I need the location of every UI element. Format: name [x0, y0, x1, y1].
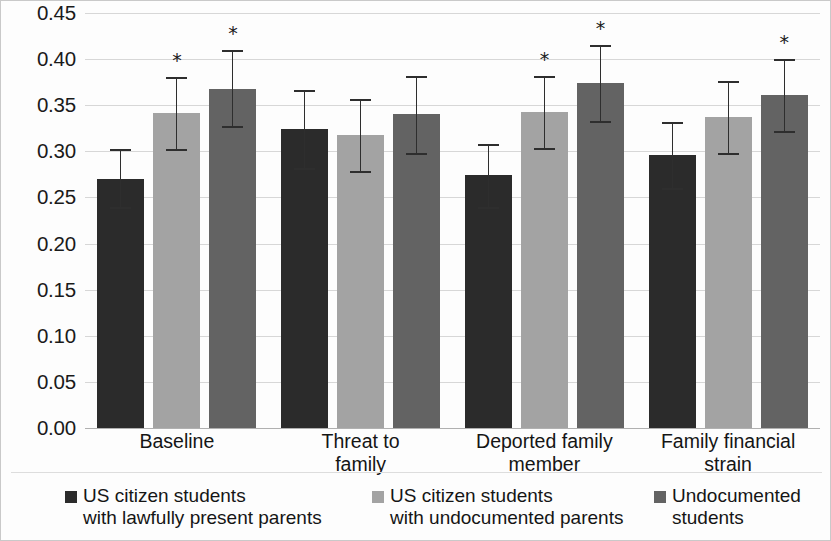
error-bar: [360, 99, 361, 171]
error-bar: [120, 149, 121, 206]
error-bar-cap-lower: [534, 148, 555, 150]
y-axis-tick-label: 0.20: [37, 232, 76, 256]
y-axis-tick-label: 0.00: [37, 416, 76, 440]
error-bar: [728, 81, 729, 153]
significance-asterisk: *: [228, 24, 238, 43]
x-axis-category-label: Baseline: [85, 430, 269, 476]
error-bar-cap-lower: [662, 188, 683, 190]
error-bar-cap-upper: [718, 81, 739, 83]
legend-swatch-icon: [654, 491, 666, 503]
bar-slot: [393, 13, 440, 428]
bar[interactable]: [209, 89, 256, 428]
error-bar-cap-lower: [718, 153, 739, 155]
bar[interactable]: [153, 113, 200, 428]
chart-legend: US citizen students with lawfully presen…: [65, 485, 820, 529]
bar-group-bars: **: [85, 13, 269, 428]
bar[interactable]: [521, 112, 568, 428]
bar-group-bars: *: [636, 13, 820, 428]
legend-separator: [11, 472, 822, 473]
bar[interactable]: [97, 179, 144, 428]
x-axis-category-label: Family financial strain: [636, 430, 820, 476]
gridline: [85, 428, 820, 429]
error-bar-cap-lower: [774, 131, 795, 133]
legend-item[interactable]: Undocumented students: [654, 485, 820, 529]
x-axis-category-label: Threat to family: [269, 430, 453, 476]
y-axis-tick-label: 0.45: [37, 1, 76, 25]
error-bar-cap-lower: [110, 207, 131, 209]
bar-group: **: [453, 13, 637, 428]
error-bar-cap-lower: [222, 126, 243, 128]
error-bar-cap-upper: [350, 99, 371, 101]
error-bar-cap-upper: [294, 90, 315, 92]
error-bar-cap-lower: [590, 121, 611, 123]
bar-slot: [705, 13, 752, 428]
legend-item[interactable]: US citizen students with undocumented pa…: [372, 485, 654, 529]
error-bar: [232, 50, 233, 127]
error-bar-cap-lower: [406, 153, 427, 155]
bar-group: [269, 13, 453, 428]
error-bar-cap-upper: [774, 59, 795, 61]
significance-asterisk: *: [540, 50, 550, 69]
y-axis-tick-label: 0.15: [37, 278, 76, 302]
error-bar-cap-upper: [590, 45, 611, 47]
error-bar-cap-lower: [166, 149, 187, 151]
legend-item[interactable]: US citizen students with lawfully presen…: [65, 485, 372, 529]
legend-item-label: US citizen students with undocumented pa…: [390, 485, 623, 529]
error-bar-cap-upper: [478, 144, 499, 146]
error-bar: [488, 144, 489, 207]
significance-asterisk: *: [596, 19, 606, 38]
bar-group-bars: [269, 13, 453, 428]
error-bar-cap-upper: [662, 122, 683, 124]
error-bar: [176, 77, 177, 149]
error-bar: [784, 59, 785, 131]
bar-slot: *: [577, 13, 624, 428]
bar-groups: *****: [85, 13, 820, 428]
bar-slot: [281, 13, 328, 428]
error-bar-cap-lower: [478, 207, 499, 209]
significance-asterisk: *: [172, 51, 182, 70]
bar-slot: *: [761, 13, 808, 428]
bar-slot: [97, 13, 144, 428]
error-bar-cap-lower: [294, 168, 315, 170]
bar[interactable]: [761, 95, 808, 428]
legend-item-label: Undocumented students: [672, 485, 801, 529]
bar[interactable]: [705, 117, 752, 428]
bar-slot: [649, 13, 696, 428]
bar[interactable]: [649, 155, 696, 428]
y-axis-tick-label: 0.10: [37, 324, 76, 348]
y-axis-tick-label: 0.25: [37, 185, 76, 209]
error-bar-cap-upper: [534, 76, 555, 78]
y-axis-tick-label: 0.05: [37, 370, 76, 394]
legend-swatch-icon: [65, 491, 77, 503]
bar[interactable]: [337, 135, 384, 428]
bar-group: **: [85, 13, 269, 428]
error-bar: [544, 76, 545, 148]
bar-chart-figure: 0.450.400.350.300.250.200.150.100.050.00…: [0, 0, 831, 541]
plot-area: 0.450.400.350.300.250.200.150.100.050.00…: [85, 13, 820, 428]
x-axis-category-label: Deported family member: [453, 430, 637, 476]
bar-group-bars: **: [453, 13, 637, 428]
y-axis-tick-label: 0.35: [37, 93, 76, 117]
bar[interactable]: [465, 175, 512, 428]
error-bar-cap-lower: [350, 171, 371, 173]
bar[interactable]: [281, 129, 328, 428]
bar-slot: *: [521, 13, 568, 428]
bar-slot: *: [209, 13, 256, 428]
error-bar-cap-upper: [110, 149, 131, 151]
error-bar-cap-upper: [222, 50, 243, 52]
error-bar-cap-upper: [166, 77, 187, 79]
legend-item-label: US citizen students with lawfully presen…: [83, 485, 322, 529]
error-bar: [672, 122, 673, 188]
bar-slot: [465, 13, 512, 428]
x-axis-category-labels: BaselineThreat to familyDeported family …: [85, 430, 820, 476]
bar-group: *: [636, 13, 820, 428]
legend-swatch-icon: [372, 491, 384, 503]
error-bar: [304, 90, 305, 167]
y-axis-tick-label: 0.30: [37, 139, 76, 163]
bar[interactable]: [577, 83, 624, 428]
bar-slot: [337, 13, 384, 428]
bar[interactable]: [393, 114, 440, 428]
significance-asterisk: *: [779, 33, 789, 52]
error-bar: [416, 76, 417, 153]
error-bar: [600, 45, 601, 121]
